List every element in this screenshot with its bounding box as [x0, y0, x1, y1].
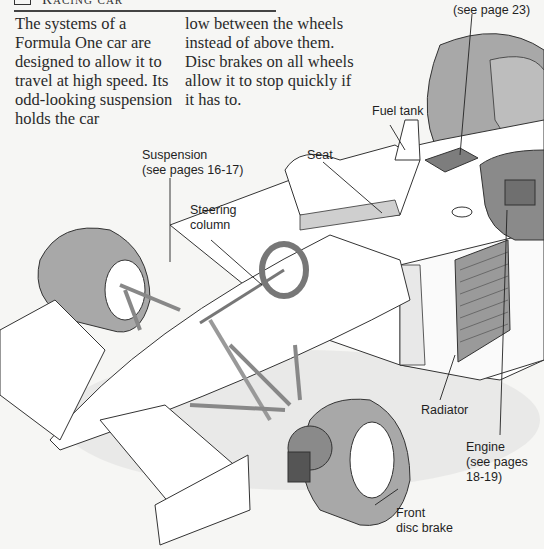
- callout-radiator: Radiator: [421, 403, 468, 418]
- racing-car-illustration: [0, 0, 544, 549]
- callout-seat: Seat: [307, 148, 333, 163]
- callout-suspension: Suspension (see pages 16-17): [142, 148, 243, 178]
- callout-engine: Engine (see pages 18-19): [466, 440, 528, 485]
- callout-electronics: (see page 23): [453, 3, 530, 18]
- callout-front-disc-brake: Front disc brake: [396, 506, 453, 536]
- callout-steering-column: Steering column: [190, 203, 237, 233]
- callout-fuel-tank: Fuel tank: [372, 104, 423, 119]
